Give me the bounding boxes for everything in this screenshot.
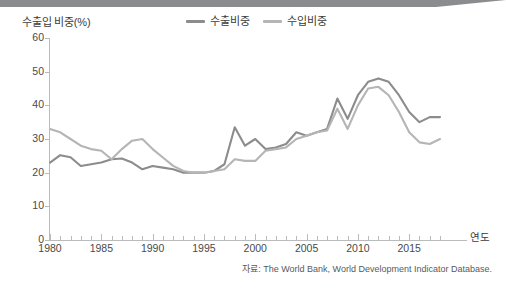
x-tick-label: 2005 [295, 243, 318, 254]
x-tick-minor [183, 236, 184, 240]
x-tick-minor [368, 236, 369, 240]
x-tick-minor [245, 236, 246, 240]
x-tick-minor [378, 236, 379, 240]
x-tick-label: 1995 [192, 243, 215, 254]
y-tick-mark [45, 240, 49, 241]
x-tick-label: 1990 [141, 243, 164, 254]
x-tick-minor [60, 236, 61, 240]
x-tick-minor [399, 236, 400, 240]
y-tick-mark [45, 206, 49, 207]
x-tick-minor [286, 236, 287, 240]
x-tick-minor [71, 236, 72, 240]
y-tick-mark [45, 173, 49, 174]
x-tick-minor [224, 236, 225, 240]
x-tick-label: 1980 [38, 243, 61, 254]
x-tick-minor [173, 236, 174, 240]
x-tick-minor [194, 236, 195, 240]
y-tick-mark [45, 139, 49, 140]
x-tick-label: 2015 [398, 243, 421, 254]
y-tick-mark [45, 38, 49, 39]
x-axis-label: 연도 [470, 229, 490, 244]
x-axis-ticks: 19801985199019952000200520102015 [0, 0, 506, 290]
x-tick-minor [214, 236, 215, 240]
x-tick-minor [122, 236, 123, 240]
x-tick-major [409, 234, 410, 240]
x-tick-minor [317, 236, 318, 240]
x-tick-minor [81, 236, 82, 240]
x-tick-minor [419, 236, 420, 240]
x-tick-minor [440, 236, 441, 240]
source-note: 자료: The World Bank, World Development In… [0, 262, 492, 275]
x-tick-label: 1985 [90, 243, 113, 254]
x-tick-major [358, 234, 359, 240]
x-tick-minor [235, 236, 236, 240]
x-tick-minor [132, 236, 133, 240]
x-tick-major [255, 234, 256, 240]
x-tick-major [101, 234, 102, 240]
chart-page: 수출입 비중(%) 수출비중 수입비중 0102030405060 198019… [0, 0, 506, 290]
x-tick-minor [348, 236, 349, 240]
y-tick-mark [45, 105, 49, 106]
x-tick-major [50, 234, 51, 240]
x-tick-minor [142, 236, 143, 240]
y-tick-mark [45, 72, 49, 73]
x-tick-minor [91, 236, 92, 240]
x-tick-minor [276, 236, 277, 240]
x-tick-minor [337, 236, 338, 240]
x-tick-label: 2000 [244, 243, 267, 254]
x-tick-major [204, 234, 205, 240]
x-tick-minor [327, 236, 328, 240]
x-tick-label: 2010 [346, 243, 369, 254]
x-tick-minor [296, 236, 297, 240]
x-tick-minor [266, 236, 267, 240]
x-tick-minor [389, 236, 390, 240]
x-tick-minor [112, 236, 113, 240]
x-tick-major [307, 234, 308, 240]
x-tick-major [153, 234, 154, 240]
x-tick-minor [163, 236, 164, 240]
x-tick-minor [430, 236, 431, 240]
